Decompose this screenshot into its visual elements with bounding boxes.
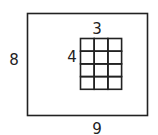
grid-cell [108, 39, 122, 52]
grid-cell [108, 77, 122, 90]
grid-cell [108, 64, 122, 77]
outer-width-label: 9 [92, 120, 102, 135]
inner-width-label: 3 [92, 20, 102, 38]
grid-cell [94, 39, 108, 52]
grid-cell [81, 64, 95, 77]
inner-height-label: 4 [67, 48, 77, 66]
grid-cell [81, 51, 95, 64]
grid-cell [94, 51, 108, 64]
inner-grid [81, 39, 122, 90]
outer-height-label: 8 [9, 51, 19, 69]
grid-cell [94, 77, 108, 90]
diagram: 8 9 3 4 [0, 0, 158, 135]
grid-cell [81, 39, 95, 52]
grid-cell [94, 64, 108, 77]
grid-cell [108, 51, 122, 64]
grid-cell [81, 77, 95, 90]
